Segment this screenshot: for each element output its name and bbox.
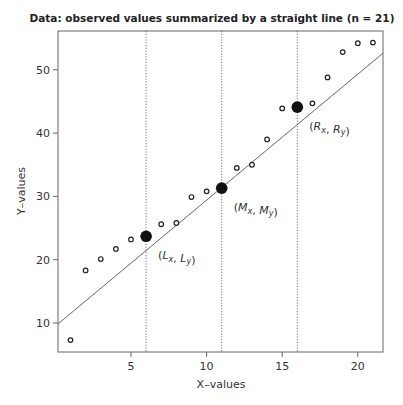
summary-label-m: (Mx, My) xyxy=(234,201,278,219)
data-point xyxy=(280,106,285,111)
y-tick-label: 20 xyxy=(36,254,50,267)
x-tick-label: 10 xyxy=(200,360,214,373)
x-tick-label: 20 xyxy=(351,360,365,373)
x-axis-label: X–values xyxy=(197,378,246,391)
y-tick-label: 10 xyxy=(36,317,50,330)
data-point xyxy=(265,137,270,142)
data-point xyxy=(371,40,376,45)
x-axis-ticks: 5101520 xyxy=(128,352,365,373)
data-point xyxy=(68,338,73,343)
summary-point-m xyxy=(216,182,228,194)
data-point xyxy=(310,101,315,106)
data-point xyxy=(235,166,240,171)
data-point xyxy=(189,195,194,200)
summary-label-l: (Lx, Ly) xyxy=(158,249,195,267)
scatter-chart: Data: observed values summarized by a st… xyxy=(0,0,403,405)
summary-point-labels: (Lx, Ly)(Mx, My)(Rx, Ry) xyxy=(158,120,350,267)
data-point xyxy=(174,221,179,226)
y-tick-label: 50 xyxy=(36,64,50,77)
data-point xyxy=(159,222,164,227)
summary-point-l xyxy=(140,230,152,242)
summary-point-r xyxy=(292,101,304,113)
y-tick-label: 40 xyxy=(36,127,50,140)
data-point xyxy=(114,247,119,252)
summary-label-r: (Rx, Ry) xyxy=(309,120,349,138)
y-axis-ticks: 1020304050 xyxy=(36,64,58,330)
data-point xyxy=(356,41,361,46)
chart-title: Data: observed values summarized by a st… xyxy=(30,12,395,24)
data-point xyxy=(340,50,345,55)
y-axis-label: Y–values xyxy=(15,167,28,216)
data-point xyxy=(98,257,103,262)
x-tick-label: 5 xyxy=(128,360,135,373)
data-point xyxy=(129,237,134,242)
data-point xyxy=(250,162,255,167)
data-point xyxy=(325,75,330,80)
data-point xyxy=(83,268,88,273)
x-tick-label: 15 xyxy=(275,360,289,373)
y-tick-label: 30 xyxy=(36,190,50,203)
data-point xyxy=(204,189,209,194)
